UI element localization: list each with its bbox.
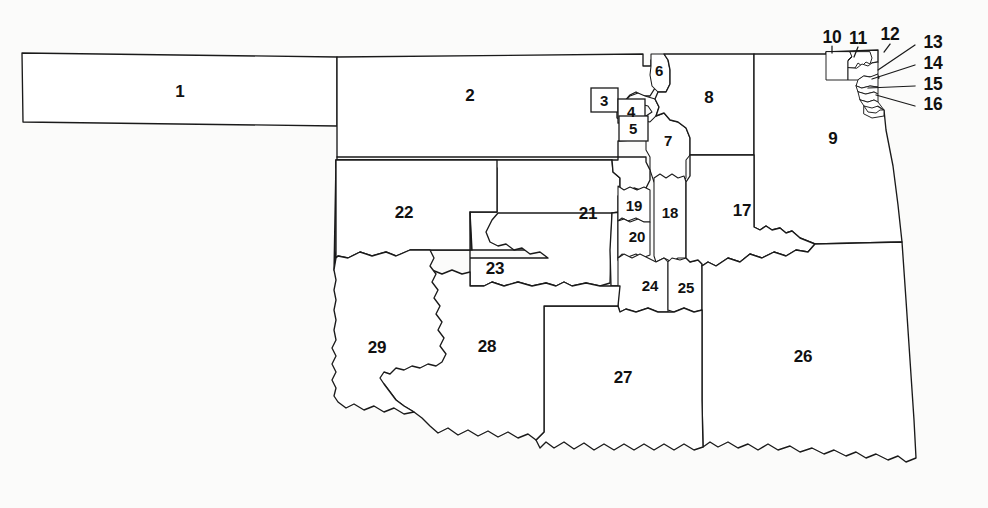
region-label-25: 25 [678,280,694,295]
region-label-3: 3 [600,93,608,108]
region-label-7: 7 [664,133,672,148]
region-label-20: 20 [629,229,645,244]
region-label-14: 14 [923,55,942,73]
region-label-24: 24 [642,278,658,293]
region-map-figure: 1 2 3 4 5 6 7 8 9 10 11 12 13 14 15 16 1… [0,0,988,508]
region-label-23: 23 [486,260,505,277]
map-svg [0,0,988,508]
region-label-22: 22 [395,204,414,221]
region-label-19: 19 [626,198,642,213]
leader-line-16 [876,95,915,106]
region-label-1: 1 [175,83,184,100]
region-label-9: 9 [828,130,837,147]
region-label-6: 6 [655,63,663,78]
region-label-26: 26 [794,348,813,365]
region-label-17: 17 [733,202,752,219]
region-label-12: 12 [880,26,899,44]
region-label-2: 2 [465,87,474,104]
region-label-8: 8 [704,89,713,106]
region-label-4: 4 [627,104,635,119]
region-label-21: 21 [579,205,598,222]
region-label-10: 10 [822,29,841,47]
region-label-27: 27 [614,369,633,386]
region-label-13: 13 [923,34,942,52]
leader-line-12 [884,44,890,52]
region-label-16: 16 [923,96,942,114]
region-label-29: 29 [368,339,387,356]
region-label-5: 5 [629,121,637,136]
region-label-28: 28 [478,338,497,355]
region-label-18: 18 [662,205,678,220]
region-label-11: 11 [849,30,867,48]
region-label-15: 15 [923,76,942,94]
